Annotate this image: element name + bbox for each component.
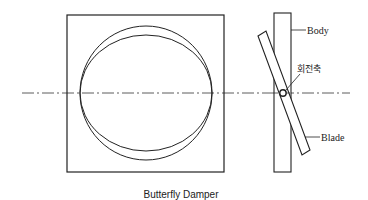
- axis-label: 회전축: [297, 64, 321, 74]
- butterfly-damper-diagram: Body 회전축 Blade Butterfly Damper: [0, 0, 368, 200]
- diagram-caption: Butterfly Damper: [143, 189, 219, 200]
- body-label: Body: [307, 25, 329, 36]
- front-view: [67, 15, 224, 172]
- blade-label: Blade: [321, 132, 345, 143]
- side-view: Body 회전축 Blade: [258, 13, 345, 172]
- pivot-axis-icon: [280, 90, 286, 96]
- frame-square: [67, 15, 224, 172]
